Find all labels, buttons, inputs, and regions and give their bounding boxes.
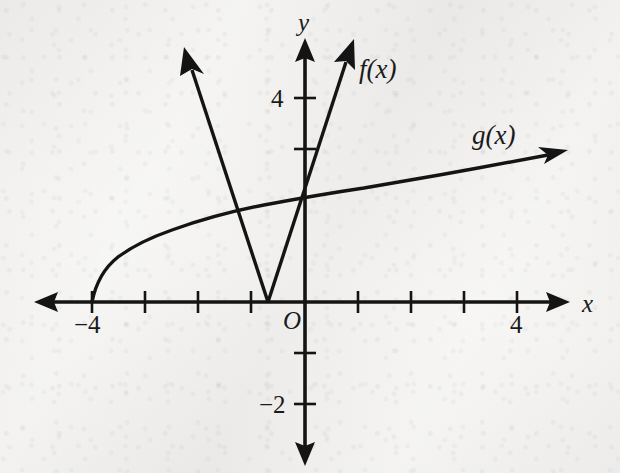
- x-axis-name-label: x: [582, 291, 593, 316]
- function-g-label: g(x): [472, 122, 515, 149]
- y-axis-label-pos4: 4: [271, 86, 284, 111]
- function-f-label: f(x): [359, 56, 396, 83]
- coordinate-plane-graph: [0, 0, 620, 473]
- f-left-branch: [192, 70, 268, 302]
- x-axis-group: [34, 291, 570, 313]
- function-g-curve: [92, 147, 568, 302]
- g-sqrt-path: [92, 155, 548, 302]
- function-f-curve: [180, 39, 355, 302]
- figure-container: −4 4 4 −2 O x y f(x) g(x): [0, 0, 620, 473]
- y-axis-group: [294, 38, 316, 466]
- x-axis-label-pos4: 4: [510, 312, 523, 337]
- y-axis-name-label: y: [298, 10, 309, 35]
- origin-label: O: [283, 308, 301, 333]
- x-axis-label-neg4: −4: [74, 312, 101, 337]
- y-axis-label-neg2: −2: [259, 392, 286, 417]
